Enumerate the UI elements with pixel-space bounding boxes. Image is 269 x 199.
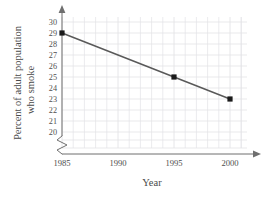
y-tick-label: 24 (49, 84, 57, 93)
data-point-marker (171, 74, 176, 79)
y-tick-label: 27 (49, 51, 57, 60)
x-tick-label: 1990 (109, 158, 126, 168)
y-tick-label: 22 (49, 106, 57, 115)
y-tick-label: 21 (49, 117, 57, 126)
line-chart: 2021222324252627282930 1985199019952000 … (0, 0, 269, 199)
y-tick-label: 26 (49, 62, 57, 71)
x-tick-label: 1995 (165, 158, 182, 168)
y-axis-title-line-1: Percent of adult population (12, 25, 23, 140)
y-tick-label: 30 (49, 18, 57, 27)
data-point-marker (59, 30, 64, 35)
data-point-marker (227, 96, 232, 101)
x-tick-label: 1985 (53, 158, 70, 168)
y-tick-label: 29 (49, 29, 57, 38)
y-tick-label: 25 (49, 73, 57, 82)
y-tick-labels: 2021222324252627282930 (49, 18, 57, 137)
y-tick-label: 20 (49, 128, 57, 137)
x-tick-label: 2000 (221, 158, 238, 168)
chart-container: 2021222324252627282930 1985199019952000 … (0, 0, 269, 199)
y-axis-title-line-2: who smoke (25, 66, 36, 114)
x-axis-title: Year (142, 177, 162, 188)
y-tick-label: 28 (49, 40, 57, 49)
y-tick-label: 23 (49, 95, 57, 104)
